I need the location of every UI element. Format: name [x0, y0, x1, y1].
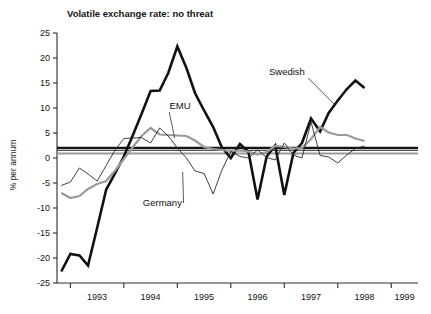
x-tick-label: 1997: [301, 292, 321, 302]
x-tick-label: 1993: [87, 292, 107, 302]
y-axis-label: % per annum: [8, 140, 18, 191]
data-series: [61, 47, 364, 272]
exchange-rate-line-chart: Volatile exchange rate: no threat % per …: [0, 0, 431, 314]
x-axis: 1993199419951996199719981999: [57, 283, 418, 302]
y-tick-label: 20: [40, 53, 50, 63]
y-tick-label: 25: [40, 28, 50, 38]
annotation-leader-germany: [183, 172, 184, 203]
y-tick-label: 10: [40, 103, 50, 113]
x-tick-label: 1999: [395, 292, 415, 302]
y-tick-label: -25: [37, 278, 50, 288]
series-line-swedish: [61, 47, 364, 272]
y-tick-label: -5: [42, 178, 50, 188]
y-axis: 2520151050-5-10-15-20-25: [37, 28, 57, 288]
annotation-leader-swedish: [308, 78, 335, 105]
x-tick-label: 1998: [355, 292, 375, 302]
annotation-label-emu: EMU: [169, 100, 190, 111]
series-line-germany: [61, 122, 364, 194]
y-tick-label: -10: [37, 203, 50, 213]
series-annotations: SwedishEMUGermany: [143, 66, 335, 208]
x-tick-label: 1994: [141, 292, 161, 302]
y-tick-label: 0: [45, 153, 50, 163]
y-tick-label: 5: [45, 128, 50, 138]
y-tick-label: -20: [37, 253, 50, 263]
annotation-label-germany: Germany: [143, 197, 182, 208]
chart-title: Volatile exchange rate: no threat: [67, 8, 214, 19]
annotation-label-swedish: Swedish: [269, 66, 305, 77]
y-tick-label: 15: [40, 78, 50, 88]
x-tick-label: 1996: [248, 292, 268, 302]
x-tick-label: 1995: [194, 292, 214, 302]
y-tick-label: -15: [37, 228, 50, 238]
chart-container: Volatile exchange rate: no threat % per …: [0, 0, 431, 314]
